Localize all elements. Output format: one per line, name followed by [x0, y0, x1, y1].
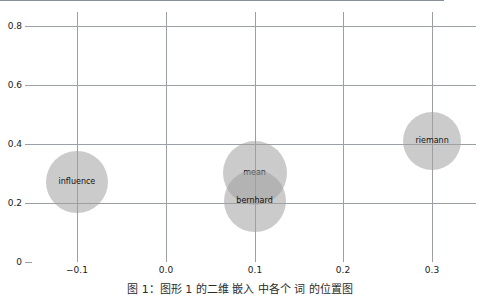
gridline-horizontal — [32, 85, 476, 86]
gridline-horizontal — [32, 26, 476, 27]
x-tick-mark — [432, 255, 433, 262]
x-tick-label: −0.1 — [57, 266, 97, 275]
bubble-label: influence — [59, 178, 96, 186]
bubble-bernhard[interactable]: bernhard — [224, 170, 286, 232]
bubble-riemann[interactable]: riemann — [403, 112, 461, 170]
y-tick-label: 0.8 — [0, 22, 22, 31]
y-tick-mark — [25, 26, 32, 27]
x-axis-line — [0, 0, 444, 1]
x-tick-label: 0.2 — [323, 266, 363, 275]
y-tick-label: 0.2 — [0, 199, 22, 208]
bubble-influence[interactable]: influence — [46, 151, 108, 213]
x-tick-label: 0.1 — [235, 266, 275, 275]
y-tick-label: 0 — [0, 258, 22, 267]
x-tick-label: 0.0 — [146, 266, 186, 275]
x-tick-label: 0.3 — [412, 266, 452, 275]
x-tick-mark — [77, 255, 78, 262]
gridline-vertical — [166, 12, 167, 262]
x-tick-mark — [255, 255, 256, 262]
gridline-vertical — [77, 12, 78, 262]
y-tick-mark — [25, 85, 32, 86]
y-tick-mark — [25, 203, 32, 204]
x-tick-mark — [166, 255, 167, 262]
y-tick-mark — [25, 144, 32, 145]
bubble-label: bernhard — [236, 197, 272, 205]
x-tick-mark — [343, 255, 344, 262]
bubble-label: riemann — [415, 137, 448, 145]
y-tick-label: 0.6 — [0, 81, 22, 90]
gridline-vertical — [343, 12, 344, 262]
y-tick-label: 0.4 — [0, 140, 22, 149]
figure-caption: 图 1：图形 1 的二维 嵌入 中各个 词 的位置图 — [0, 283, 480, 296]
y-tick-mark — [25, 262, 32, 263]
bubble-chart-figure: 00.20.40.60.8−0.10.00.10.20.3 influencem… — [0, 0, 480, 296]
